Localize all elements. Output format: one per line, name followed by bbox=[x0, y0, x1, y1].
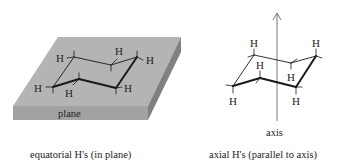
right-caption: axial H's (parallel to axis) bbox=[209, 149, 318, 161]
left-caption: equatorial H's (in plane) bbox=[30, 149, 132, 161]
plane-label: plane bbox=[58, 108, 81, 119]
h-label: H bbox=[34, 82, 42, 94]
h-label: H bbox=[312, 37, 320, 49]
h-label: H bbox=[250, 37, 258, 49]
h-label: H bbox=[256, 59, 264, 71]
h-label: H bbox=[56, 52, 64, 64]
h-label: H bbox=[65, 87, 73, 99]
axis-label: axis bbox=[266, 127, 283, 138]
axis-arrow bbox=[273, 13, 281, 121]
h-label: H bbox=[292, 95, 300, 107]
h-label: H bbox=[146, 54, 154, 66]
h-label: H bbox=[229, 95, 237, 107]
h-label: H bbox=[115, 45, 123, 57]
axial-chair bbox=[226, 49, 322, 94]
h-label: H bbox=[287, 71, 295, 83]
h-label: H bbox=[124, 82, 132, 94]
cyclohexane-diagram: H H H H H H plane equatorial H's (in pla… bbox=[0, 0, 343, 163]
plane-slab bbox=[13, 37, 181, 120]
